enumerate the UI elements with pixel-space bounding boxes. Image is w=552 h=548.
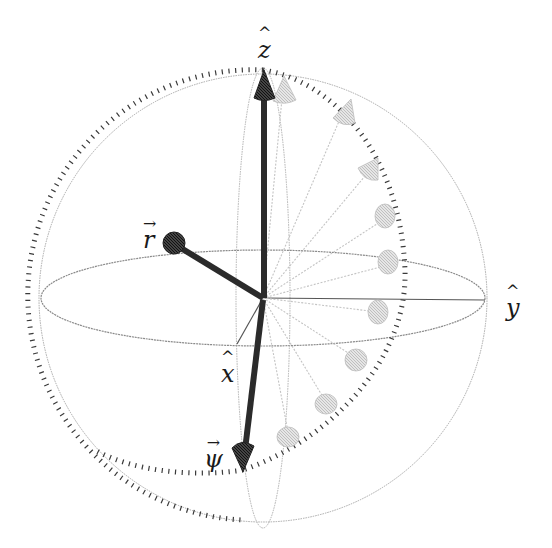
rotation-path-ticks [28,70,263,520]
x-hat-accent: ^ [221,350,235,366]
ghost-cone-icon [378,250,398,274]
y-axis-line [263,298,485,300]
psi-vector-cone-icon [232,442,254,472]
y-hat-accent: ^ [506,284,520,300]
r-vector-sphere-head-icon [163,232,185,254]
z-axis-label: ^ z [258,38,271,62]
psi-vector-label: → ψ [204,447,223,471]
ghost-cone-icon [368,300,388,324]
ghost-cone-icon [277,427,299,447]
bloch-sphere-diagram: ^ z ^ y ^ x → r → ψ [0,0,552,548]
ghost-cone-icon [375,204,395,228]
z-hat-accent: ^ [258,26,271,42]
ghost-cone-icon [345,349,367,371]
psi-arrow-accent: → [204,435,223,451]
y-axis-label: ^ y [506,296,520,320]
z-vector-cone-icon [254,70,275,101]
r-vector-label: → r [143,228,154,252]
ghost-vector-heads [273,76,398,447]
ghost-cone-icon [358,158,378,180]
ghost-cone-icon [273,76,296,103]
ghost-cone-icon [333,99,355,125]
ghost-cone-icon [315,394,337,414]
r-arrow-accent: → [143,216,154,232]
psi-vector-shaft [245,300,263,450]
x-axis-label: ^ x [221,362,235,386]
bloch-sphere-canvas [0,0,552,548]
r-vector-shaft [176,245,263,298]
